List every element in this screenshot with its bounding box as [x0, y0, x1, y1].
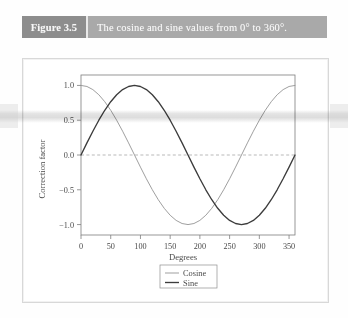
figure-caption-text: The cosine and sine values from 0° to 36…: [88, 16, 327, 38]
series-line-sine: [81, 85, 295, 224]
y-tick-label: 1.0: [64, 81, 74, 90]
x-tick-labels: 050100150200250300350: [79, 242, 295, 251]
plot-card: 050100150200250300350 1.00.50.0−0.5−1.0 …: [22, 58, 329, 303]
scan-smudge-left: [0, 104, 18, 128]
x-tick-label: 50: [107, 242, 115, 251]
figure-number-tag: Figure 3.5: [22, 16, 86, 38]
scan-smudge-right: [330, 104, 348, 128]
y-tick-label: −1.0: [59, 221, 74, 230]
chart-legend: CosineSine: [160, 265, 217, 288]
x-tick-label: 0: [79, 242, 83, 251]
axis-ticks: [77, 85, 289, 239]
data-series: [81, 85, 295, 224]
y-tick-label: −0.5: [59, 186, 74, 195]
x-tick-label: 350: [283, 242, 295, 251]
legend-label-sine: Sine: [183, 279, 198, 288]
y-tick-labels: 1.00.50.0−0.5−1.0: [59, 81, 74, 229]
sine-cosine-line-chart: 050100150200250300350 1.00.50.0−0.5−1.0 …: [23, 59, 328, 302]
x-axis-label: Degrees: [169, 252, 198, 262]
x-tick-label: 250: [223, 242, 235, 251]
y-axis-label: Correction factor: [37, 139, 47, 198]
y-tick-label: 0.5: [64, 116, 74, 125]
figure-caption-band: Figure 3.5 The cosine and sine values fr…: [22, 16, 327, 38]
legend-label-cosine: Cosine: [183, 269, 207, 278]
x-tick-label: 100: [134, 242, 146, 251]
x-tick-label: 200: [194, 242, 206, 251]
x-tick-label: 150: [164, 242, 176, 251]
y-tick-label: 0.0: [64, 151, 74, 160]
figure-container: Figure 3.5 The cosine and sine values fr…: [0, 0, 348, 318]
x-tick-label: 300: [253, 242, 265, 251]
